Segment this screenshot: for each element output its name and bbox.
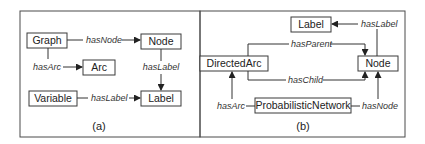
node-node-label: Node: [148, 35, 173, 47]
node-label-label: Label: [148, 92, 174, 104]
node-b-node: Node: [358, 56, 398, 71]
node-arc-label: Arc: [91, 61, 107, 73]
node-b-label: Label: [291, 17, 331, 32]
edge-b-hasarc: hasArc: [217, 72, 255, 111]
panel-a: Graph Node Arc Variable Label hasNode: [20, 11, 200, 137]
edge-graph-hasarc: hasArc: [33, 48, 82, 72]
edge-b-label-hasparent: hasParent: [291, 39, 333, 49]
edge-variable-haslabel: hasLabel: [77, 93, 140, 103]
node-variable: Variable: [29, 91, 77, 106]
edge-b-label-haslabel: hasLabel: [361, 19, 399, 29]
edge-label-hasarc: hasArc: [33, 62, 62, 72]
edge-b-label-hasnode: hasNode: [362, 101, 398, 111]
node-variable-label: Variable: [34, 92, 72, 104]
node-node: Node: [141, 34, 181, 49]
node-graph: Graph: [27, 33, 67, 48]
node-b-directedarc: DirectedArc: [200, 56, 268, 71]
diagram-canvas: Graph Node Arc Variable Label hasNode: [0, 0, 425, 144]
node-graph-label: Graph: [32, 34, 61, 46]
edge-label-variable-haslabel: hasLabel: [91, 93, 129, 103]
node-b-label-label: Label: [298, 18, 324, 30]
panel-b-caption: (b): [296, 120, 309, 132]
panel-b: Label DirectedArc Node ProbabilisticNetw…: [200, 11, 405, 137]
edge-b-hasparent: hasParent: [248, 39, 365, 56]
node-b-probabilisticnetwork: ProbabilisticNetwork: [255, 98, 351, 113]
edge-label-hasnode: hasNode: [86, 35, 122, 45]
edge-b-hasnode: hasNode: [351, 72, 398, 111]
node-b-node-label: Node: [365, 57, 390, 69]
edge-graph-hasnode: hasNode: [67, 35, 140, 45]
node-b-pn-label: ProbabilisticNetwork: [255, 99, 351, 111]
edge-b-haschild: hasChild: [248, 71, 365, 85]
edge-label-node-haslabel: hasLabel: [143, 62, 181, 72]
edge-node-haslabel: hasLabel: [143, 49, 181, 90]
edge-b-label-hasarc: hasArc: [217, 101, 246, 111]
edge-b-label-haschild: hasChild: [288, 75, 324, 85]
node-b-directedarc-label: DirectedArc: [207, 57, 262, 69]
node-label: Label: [141, 91, 181, 106]
panel-a-caption: (a): [92, 120, 105, 132]
node-arc: Arc: [83, 60, 115, 75]
